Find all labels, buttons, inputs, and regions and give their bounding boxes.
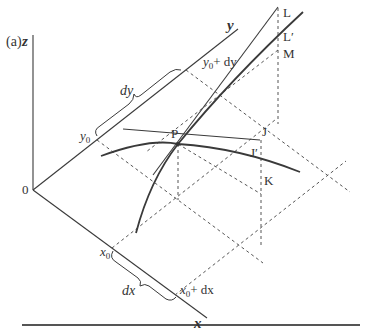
dx-label: dx — [122, 283, 136, 298]
x-axis — [33, 190, 207, 318]
line-P-to-K — [178, 144, 261, 194]
grid-line-from-x0-dx — [175, 161, 346, 295]
K-label: K — [264, 173, 274, 188]
y-axis-label: y — [225, 17, 234, 33]
L-prime-label: L′ — [283, 29, 294, 44]
x0-plus-dx-label: x0+ dx — [179, 282, 214, 299]
J-prime-label: J′ — [250, 145, 258, 160]
dy-label: dy — [120, 83, 134, 98]
y0-label: y0 — [78, 128, 91, 145]
tangent-x — [123, 129, 260, 140]
L-label: L — [283, 5, 291, 20]
P-label: P — [171, 126, 178, 141]
tangent-y — [153, 7, 278, 175]
point-P — [176, 142, 180, 146]
panel-label: (a) — [6, 34, 22, 50]
M-label: M — [283, 46, 295, 61]
y0-plus-dy-label: y0+ dy — [201, 54, 237, 71]
J-label: J — [262, 124, 267, 139]
z-axis-label: z — [21, 33, 28, 49]
grid-line-from-y0 — [97, 140, 263, 263]
brace-dy — [96, 69, 181, 136]
origin-label: 0 — [22, 182, 29, 197]
surface-differential-diagram: (a) z y x 0 dy dx y0 y0+ dy x0 x0+ dx P … — [0, 0, 366, 334]
x-axis-label: x — [193, 315, 202, 331]
